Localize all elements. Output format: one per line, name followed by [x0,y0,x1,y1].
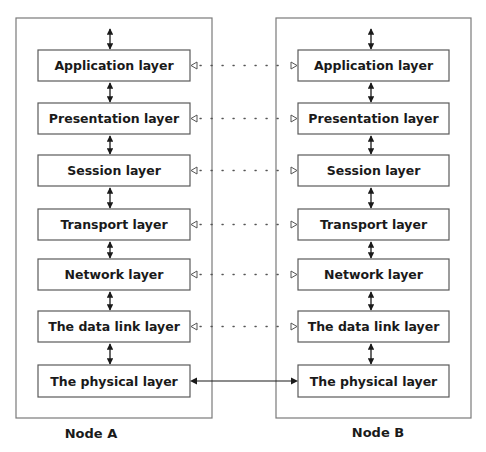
layer-box-application: Application layer [298,50,449,81]
layer-box-transport: Transport layer [298,209,449,240]
hollow-arrowhead-left-icon [191,115,197,122]
layer-label: The data link layer [308,319,440,334]
layer-box-presentation: Presentation layer [38,103,190,134]
hollow-arrowhead-left-icon [191,221,197,228]
layer-label: Network layer [64,267,164,282]
arrowhead-right-icon [291,378,298,385]
hollow-arrowhead-right-icon [291,62,297,69]
peer-link-session [191,167,297,174]
layer-label: Application layer [54,58,174,73]
hollow-arrowhead-left-icon [191,167,197,174]
node-b-layers: Application layer Presentation layer Ses… [298,50,449,397]
layer-label: The physical layer [310,374,438,389]
layer-box-application: Application layer [38,50,190,81]
peer-connections [191,62,297,330]
layer-label: Transport layer [60,217,168,232]
layer-label: Session layer [67,163,161,178]
layer-label: The data link layer [48,319,180,334]
physical-link [190,378,298,385]
hollow-arrowhead-left-icon [191,271,197,278]
arrowhead-left-icon [190,378,197,385]
layer-box-network: Network layer [38,259,190,290]
node-a-layers: Application layer Presentation layer Ses… [38,50,190,397]
layer-box-session: Session layer [38,155,190,186]
layer-box-session: Session layer [298,155,449,186]
hollow-arrowhead-right-icon [291,167,297,174]
layer-label: Network layer [324,267,424,282]
layer-box-transport: Transport layer [38,209,190,240]
layer-box-physical: The physical layer [298,365,449,397]
node-b-label: Node B [352,425,404,440]
hollow-arrowhead-right-icon [291,323,297,330]
hollow-arrowhead-right-icon [291,221,297,228]
layer-label: Presentation layer [308,111,439,126]
layer-label: The physical layer [50,374,178,389]
peer-link-presentation [191,115,297,122]
layer-box-physical: The physical layer [38,365,190,397]
hollow-arrowhead-right-icon [291,271,297,278]
layer-box-network: Network layer [298,259,449,290]
layer-label: Session layer [327,163,421,178]
peer-link-network [191,271,297,278]
layer-box-data-link: The data link layer [38,311,190,342]
layer-label: Transport layer [320,217,428,232]
hollow-arrowhead-right-icon [291,115,297,122]
peer-link-transport [191,221,297,228]
osi-diagram: Application layer Presentation layer Ses… [0,0,486,452]
peer-link-data-link [191,323,297,330]
hollow-arrowhead-left-icon [191,62,197,69]
layer-label: Application layer [314,58,434,73]
layer-box-data-link: The data link layer [298,311,449,342]
layer-label: Presentation layer [49,111,180,126]
node-a-label: Node A [65,426,118,441]
hollow-arrowhead-left-icon [191,323,197,330]
peer-link-application [191,62,297,69]
layer-box-presentation: Presentation layer [298,103,449,134]
